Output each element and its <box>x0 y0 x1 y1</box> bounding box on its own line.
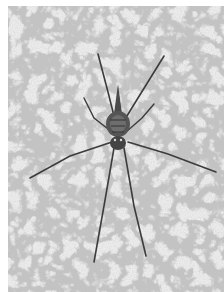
spider-photo <box>8 6 224 292</box>
image-canvas <box>0 0 224 292</box>
